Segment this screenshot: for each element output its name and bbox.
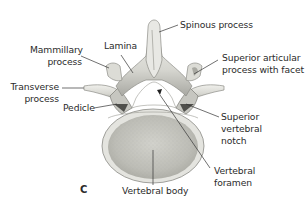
panel-letter: C <box>80 184 87 195</box>
label-spinous-process: Spinous process <box>180 19 253 31</box>
label-vertebral-body: Vertebral body <box>122 185 188 197</box>
vertebra-figure: Spinous process Lamina Mammillary proces… <box>0 0 308 205</box>
label-vertebral-foramen: Vertebral foramen <box>214 165 255 189</box>
mammillary-process-left <box>106 63 122 81</box>
label-transverse-process: Transverse process <box>2 81 59 105</box>
label-superior-articular-process: Superior articular process with facet <box>222 52 304 76</box>
label-mammillary-process: Mammillary process <box>30 44 82 68</box>
label-superior-vertebral-notch: Superior vertebral notch <box>221 111 262 147</box>
label-pedicle: Pedicle <box>63 102 95 114</box>
label-lamina: Lamina <box>104 40 137 52</box>
vertebral-foramen <box>132 82 176 108</box>
